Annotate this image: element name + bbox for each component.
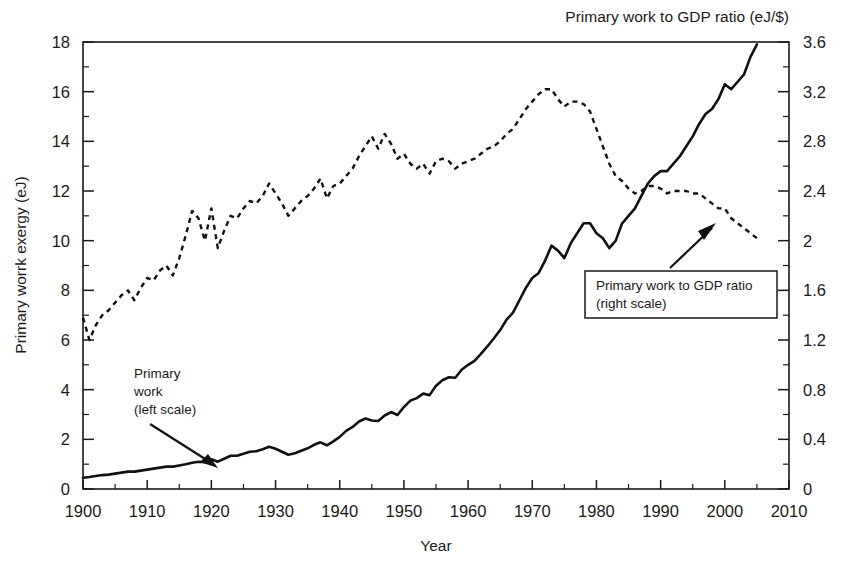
y-tick-label: 0 [61,480,70,498]
secondary-axis-title: Primary work to GDP ratio (eJ/$) [565,8,789,25]
x-tick-label: 1980 [578,502,615,520]
x-tick-label: 2010 [771,502,808,520]
primary-work-exergy-chart: Primary work to GDP ratio (eJ/$) 1900191… [0,0,846,579]
annotation-primary-work: Primary work (left scale) [133,366,218,468]
x-tick-label: 1950 [386,502,423,520]
x-tick-label: 1940 [321,502,358,520]
y-tick-label: 6 [61,331,70,349]
annotation-gdp-ratio-line-2: (right scale) [596,296,667,311]
y-tick-label: 14 [52,132,70,150]
x-tick-label: 1990 [642,502,679,520]
x-tick-label: 1960 [450,502,487,520]
y2-tick-label: 0.4 [803,430,826,448]
y-axis-right-ticks: 00.40.81.21.622.42.83.23.6 [778,33,826,498]
y2-tick-label: 2 [803,232,812,250]
y2-tick-label: 1.6 [803,281,826,299]
y2-tick-label: 2.8 [803,132,826,150]
annotation-primary-work-line-1: Primary [134,366,181,381]
x-tick-label: 1930 [257,502,294,520]
x-axis-title: Year [420,537,451,554]
x-tick-label: 1910 [129,502,166,520]
x-tick-label: 1970 [514,502,551,520]
y-tick-label: 18 [52,33,70,51]
annotation-primary-work-leader [150,424,213,464]
chart-figure: Primary work to GDP ratio (eJ/$) 1900191… [0,0,846,579]
y2-tick-label: 3.6 [803,33,826,51]
y2-tick-label: 1.2 [803,331,826,349]
plot-frame [83,42,789,489]
annotation-primary-work-line-2: work [133,384,163,399]
y2-tick-label: 2.4 [803,182,826,200]
y-tick-label: 12 [52,182,70,200]
y-tick-label: 16 [52,83,70,101]
x-tick-label: 1900 [65,502,102,520]
annotation-gdp-ratio-line-1: Primary work to GDP ratio [596,278,753,293]
y2-tick-label: 0 [803,480,812,498]
y-axis-title: Primary worrk exergy (eJ) [12,176,29,353]
y2-tick-label: 0.8 [803,381,826,399]
x-tick-label: 2000 [706,502,743,520]
annotation-primary-work-to-gdp-ratio: Primary work to GDP ratio (right scale) [585,223,777,318]
y-tick-label: 4 [61,381,70,399]
x-tick-label: 1920 [193,502,230,520]
annotation-primary-work-line-3: (left scale) [134,402,196,417]
y-axis-left-ticks: 024681012141618 [52,33,94,498]
y-tick-label: 8 [61,281,70,299]
x-axis-ticks: 1900191019201930194019501960197019801990… [65,480,808,520]
y-tick-label: 10 [52,232,70,250]
y-tick-label: 2 [61,430,70,448]
y2-tick-label: 3.2 [803,83,826,101]
